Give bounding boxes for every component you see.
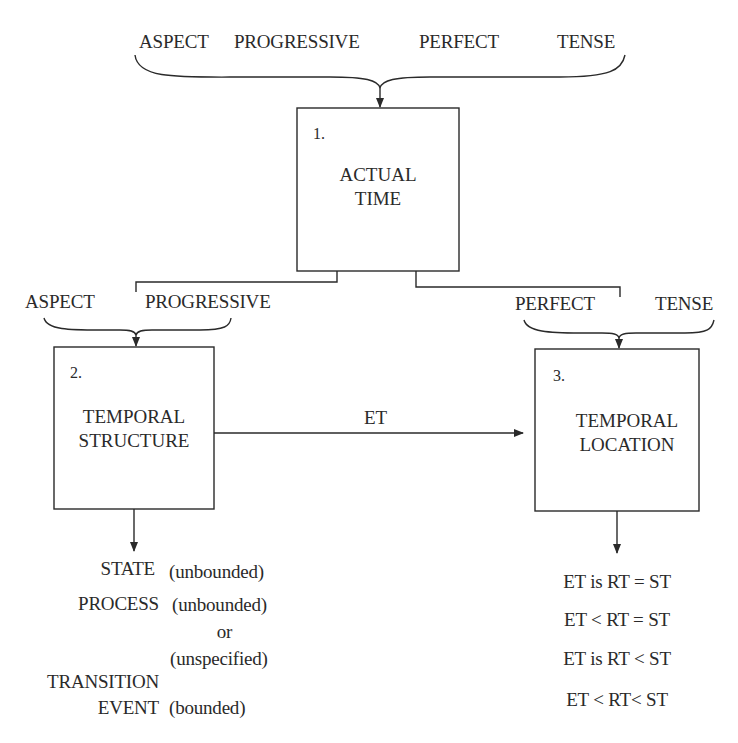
- box-3-number: 3.: [553, 367, 565, 385]
- box-2-title-line2: STRUCTURE: [54, 429, 214, 453]
- right-label-tense: TENSE: [655, 294, 713, 313]
- structure-term-event: EVENT: [60, 698, 159, 717]
- box-1-number: 1.: [313, 125, 325, 143]
- structure-note-or: or: [172, 622, 277, 641]
- structure-note-process: (unbounded): [172, 595, 267, 614]
- left-label-aspect: ASPECT: [25, 292, 95, 311]
- top-brace: [135, 55, 625, 88]
- structure-term-transition: TRANSITION: [20, 672, 159, 691]
- box-1-title-line2: TIME: [297, 187, 459, 211]
- top-label-perfect: PERFECT: [419, 32, 499, 51]
- right-label-perfect: PERFECT: [515, 294, 595, 313]
- structure-note-unspecified: (unspecified): [170, 649, 268, 668]
- box-3-title-line1: TEMPORAL: [555, 409, 699, 433]
- top-label-progressive: PROGRESSIVE: [234, 32, 360, 51]
- box-2-title: TEMPORAL STRUCTURE: [54, 405, 214, 453]
- box-1-title: ACTUAL TIME: [297, 163, 459, 211]
- left-label-progressive: PROGRESSIVE: [145, 292, 271, 311]
- box-3-title-line2: LOCATION: [555, 433, 699, 457]
- location-output-3: ET is RT < ST: [550, 649, 684, 668]
- structure-note-event: (bounded): [169, 698, 245, 717]
- top-label-tense: TENSE: [557, 32, 615, 51]
- location-output-2: ET < RT = ST: [550, 610, 684, 629]
- box-1-title-line1: ACTUAL: [297, 163, 459, 187]
- structure-note-state: (unbounded): [169, 562, 264, 581]
- diagram-lines: [0, 0, 738, 743]
- structure-term-state: STATE: [60, 559, 155, 578]
- location-output-4: ET < RT< ST: [550, 690, 684, 709]
- et-connector-label: ET: [364, 408, 387, 427]
- structure-term-process: PROCESS: [60, 594, 159, 613]
- left-bracket: [136, 271, 337, 292]
- left-brace: [44, 318, 231, 335]
- box-2-title-line1: TEMPORAL: [54, 405, 214, 429]
- location-output-1: ET is RT = ST: [550, 572, 684, 591]
- top-label-aspect: ASPECT: [139, 32, 209, 51]
- box-3-title: TEMPORAL LOCATION: [555, 409, 699, 457]
- box-2-number: 2.: [70, 364, 82, 382]
- right-brace: [524, 320, 714, 338]
